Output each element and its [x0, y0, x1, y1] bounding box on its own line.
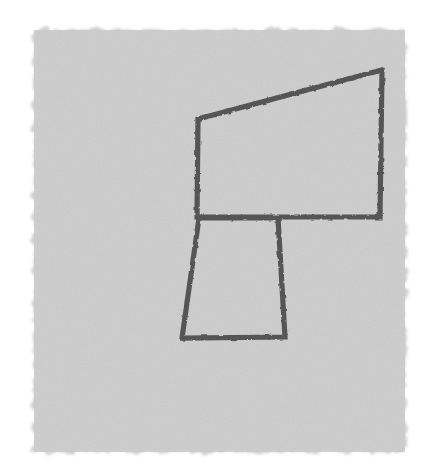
- sketch-svg: [0, 0, 429, 475]
- sketch-canvas: [0, 0, 429, 475]
- paper-grain-overlay: [34, 30, 405, 452]
